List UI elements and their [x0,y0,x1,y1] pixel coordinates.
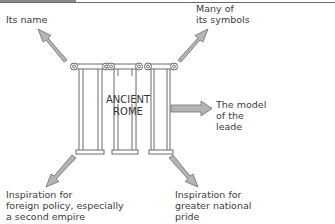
arrow-down-left-icon [46,155,76,187]
arrow-up-right-icon [178,29,208,62]
outcome-its-name: Its name [6,14,47,25]
center-label: ANCIENT ROME [98,94,158,118]
outcome-foreign-policy: Inspiration for foreign policy, especial… [6,189,124,222]
arrow-right-icon [171,101,212,116]
arrow-down-right-icon [169,155,198,187]
outcome-leader-model: The model of the leade [216,99,272,132]
outcome-national-pride: Inspiration for greater national pride [175,189,251,222]
arrow-up-left-icon [38,29,67,62]
outcome-symbols: Many of its symbols [196,3,250,25]
